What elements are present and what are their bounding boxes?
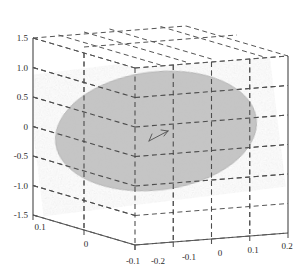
y-tick-label: -0.1 xyxy=(126,256,140,266)
z-tick-label: -0.5 xyxy=(14,151,29,161)
plot-svg: 1.5 1.0 0.5 0 -0.5 -1.0 -1.5 0.1 0 -0.1 … xyxy=(0,0,304,280)
x-tick-label: -0.1 xyxy=(182,252,196,262)
x-tick-label: 0 xyxy=(218,248,223,258)
y-tick-label: 0 xyxy=(84,239,89,249)
z-tick-label: -1.5 xyxy=(14,210,29,220)
y-tick-labels: 0.1 0 -0.1 xyxy=(34,222,140,266)
z-tick-label: 0 xyxy=(24,122,29,132)
z-tick-label: 1.5 xyxy=(17,33,29,43)
plot-canvas: 1.5 1.0 0.5 0 -0.5 -1.0 -1.5 0.1 0 -0.1 … xyxy=(0,0,304,280)
z-tick-label: 1.0 xyxy=(17,63,29,73)
z-tick-labels: 1.5 1.0 0.5 0 -0.5 -1.0 -1.5 xyxy=(14,33,29,220)
y-tick-label: 0.1 xyxy=(34,222,45,232)
x-tick-labels: -0.2 -0.1 0 0.1 0.2 xyxy=(151,241,293,266)
x-tick-label: 0.2 xyxy=(281,241,292,251)
ellipsoid-surface xyxy=(49,60,264,202)
z-tick-label: -1.0 xyxy=(14,181,29,191)
z-tick-label: 0.5 xyxy=(17,92,29,102)
x-tick-label: -0.2 xyxy=(151,256,165,266)
x-tick-label: 0.1 xyxy=(247,245,258,255)
